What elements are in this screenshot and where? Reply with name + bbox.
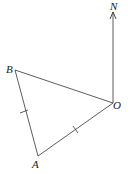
segment-BO [15,70,113,103]
label-N: N [109,0,118,12]
bearing-diagram: N B O A [0,0,131,174]
label-B: B [6,63,13,75]
tick-mark-OA [73,126,78,133]
segment-AB [15,70,38,156]
tick-mark-AB [20,110,28,113]
label-A: A [31,158,39,170]
label-O: O [113,99,121,111]
